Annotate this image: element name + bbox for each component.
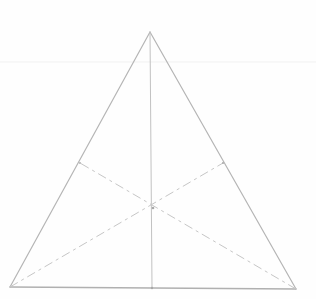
centroid-mark xyxy=(152,207,155,210)
triangle-side-left xyxy=(10,32,150,287)
sketch-canvas: Pencil sketch of a triangle with its thr… xyxy=(0,0,316,299)
median-bottom-right-to-left-side xyxy=(80,163,296,289)
median-apex-to-base xyxy=(150,32,152,288)
median-bottom-left-to-right-side xyxy=(10,163,223,287)
triangle-side-right xyxy=(150,32,296,289)
base-midpoint-mark xyxy=(151,287,153,289)
right-side-midpoint-mark xyxy=(222,162,224,164)
left-side-midpoint-mark xyxy=(79,162,81,164)
triangle-medians-diagram xyxy=(0,0,316,299)
